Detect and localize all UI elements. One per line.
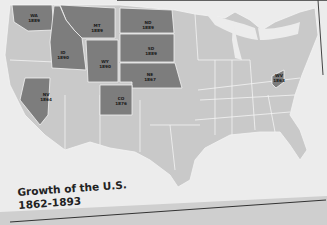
label-wv-year: 1863 [273, 78, 285, 83]
label-id-year: 1890 [57, 55, 69, 60]
label-ne-year: 1867 [144, 77, 156, 82]
label-nv-year: 1864 [40, 97, 52, 102]
label-co-year: 1876 [115, 101, 127, 106]
label-wa-year: 1889 [28, 18, 40, 23]
map-page: WA 1889 MT 1889 ND 1889 ID 1890 SD 1889 … [0, 0, 327, 225]
label-mt-year: 1889 [91, 28, 103, 33]
label-wy-year: 1890 [99, 64, 111, 69]
state-co [100, 85, 132, 115]
label-sd-year: 1889 [145, 51, 157, 56]
label-nd-year: 1889 [142, 25, 154, 30]
